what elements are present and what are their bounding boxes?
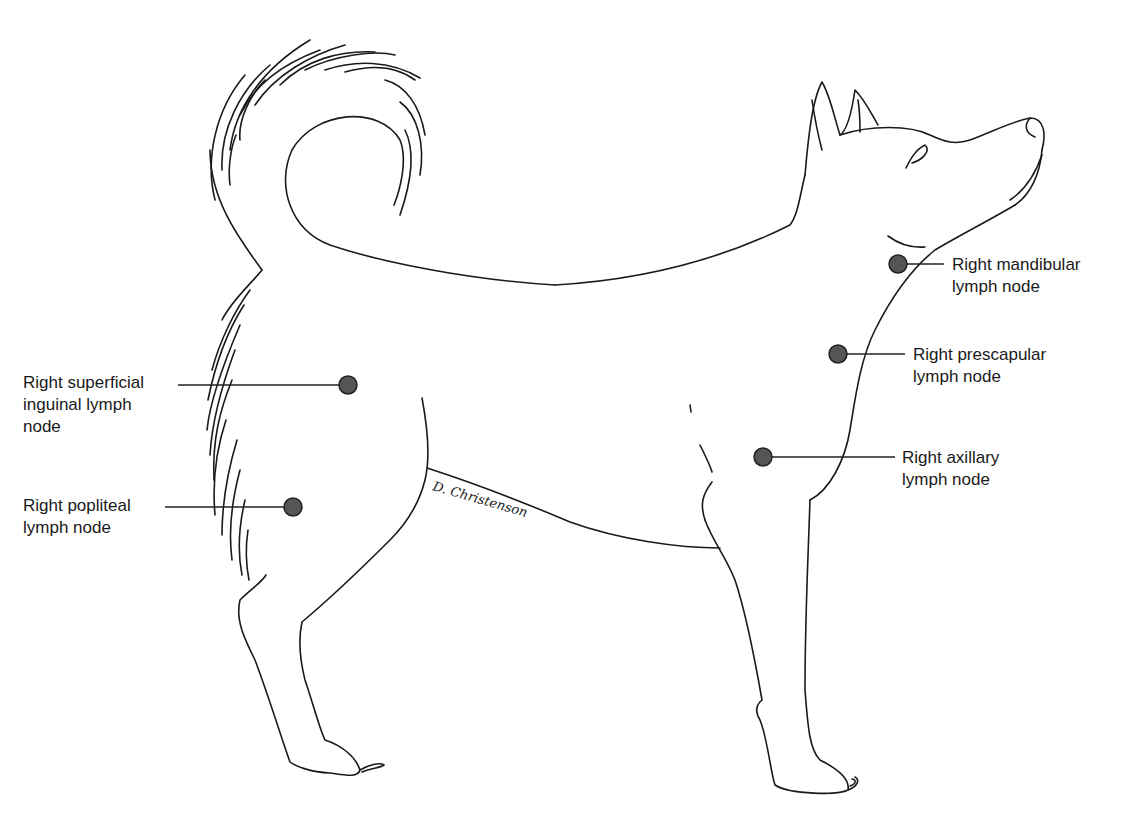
label-superficial-inguinal: Right superficial inguinal lymph node <box>23 372 144 438</box>
lymph-node-prescapular[interactable] <box>829 345 847 363</box>
leader-lines <box>165 264 944 507</box>
dog-lymph-node-diagram: D. Christenson <box>0 0 1134 816</box>
lymph-node-markers <box>284 255 907 516</box>
lymph-node-superficial-inguinal[interactable] <box>339 376 357 394</box>
lymph-node-axillary[interactable] <box>754 448 772 466</box>
label-prescapular: Right prescapular lymph node <box>913 344 1046 388</box>
label-popliteal: Right popliteal lymph node <box>23 495 131 539</box>
label-axillary: Right axillary lymph node <box>902 447 999 491</box>
lymph-node-mandibular[interactable] <box>889 255 907 273</box>
dog-outline <box>207 40 1044 793</box>
label-mandibular: Right mandibular lymph node <box>952 254 1081 298</box>
lymph-node-popliteal[interactable] <box>284 498 302 516</box>
